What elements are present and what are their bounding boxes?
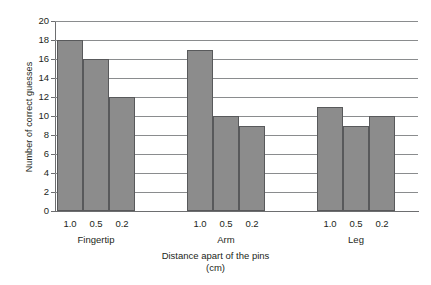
bar xyxy=(369,116,395,211)
bar xyxy=(213,116,239,211)
x-axis-title: Distance apart of the pins (cm) xyxy=(0,250,431,274)
bar xyxy=(343,126,369,212)
y-tick-label: 20 xyxy=(27,16,49,26)
x-axis-title-line2: (cm) xyxy=(0,262,431,274)
bar xyxy=(83,59,109,211)
gridline xyxy=(55,21,418,22)
bar xyxy=(187,50,213,212)
x-axis-title-line1: Distance apart of the pins xyxy=(0,250,431,262)
bar xyxy=(57,40,83,211)
bar xyxy=(317,107,343,212)
gridline xyxy=(55,78,418,79)
x-tick-label: 0.2 xyxy=(237,218,267,229)
plot-area xyxy=(55,21,418,211)
x-group-label: Arm xyxy=(176,234,276,245)
x-group-label: Fingertip xyxy=(46,234,146,245)
gridline xyxy=(55,40,418,41)
bar-chart: Number of correct guesses 02468101214161… xyxy=(0,0,431,285)
bar xyxy=(109,97,135,211)
x-tick-label: 0.2 xyxy=(107,218,137,229)
x-axis-line xyxy=(55,211,419,212)
gridline xyxy=(55,59,418,60)
bar xyxy=(239,126,265,212)
x-tick-label: 0.2 xyxy=(367,218,397,229)
y-tick-label: 0 xyxy=(27,206,49,216)
y-axis-title: Number of correct guesses xyxy=(24,32,34,202)
x-group-label: Leg xyxy=(306,234,406,245)
